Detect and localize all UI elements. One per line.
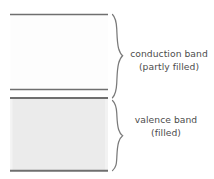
valence-band-label-line2: (filled): [126, 127, 206, 140]
valence-band-region: [11, 99, 109, 170]
valence-band-region-edge-highlight: [11, 99, 13, 170]
conduction-band-brace: [113, 15, 123, 98]
band-diagram-figure: conduction band (partly filled) valence …: [0, 0, 214, 179]
band-diagram-canvas: [0, 0, 214, 179]
valence-band-label: valence band (filled): [126, 114, 206, 139]
conduction-band-label-line1: conduction band: [126, 48, 212, 61]
conduction-band-label-line2: (partly filled): [126, 61, 212, 74]
valence-band-region-edge-highlight-right: [105, 99, 108, 170]
conduction-band-label: conduction band (partly filled): [126, 48, 212, 73]
valence-band-brace: [113, 101, 123, 171]
conduction-band-region: [11, 15, 109, 89]
valence-band-label-line1: valence band: [126, 114, 206, 127]
